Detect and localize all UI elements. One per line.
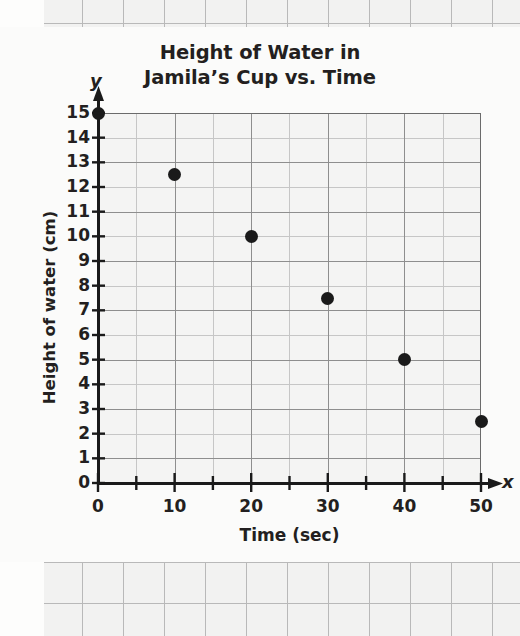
x-axis-tick-label: 40 <box>374 496 434 516</box>
x-axis-tick-label: 20 <box>221 496 281 516</box>
x-axis-tick-label: 0 <box>68 496 128 516</box>
x-axis-letter: x <box>502 471 514 492</box>
paper-left-margin-bottom <box>0 562 44 636</box>
x-axis-tick-label: 50 <box>451 496 511 516</box>
y-axis-title: Height of water (cm) <box>40 193 59 423</box>
paper-left-margin-top <box>0 0 44 27</box>
worksheet-page: Height of Water in Jamila’s Cup vs. Time… <box>0 0 520 636</box>
graph-paper-strip-bottom <box>41 562 520 636</box>
x-axis-title: Time (sec) <box>98 525 481 545</box>
x-axis-tick-label: 10 <box>145 496 205 516</box>
x-axis-tick-label: 30 <box>298 496 358 516</box>
y-axis-letter: y <box>90 70 102 91</box>
